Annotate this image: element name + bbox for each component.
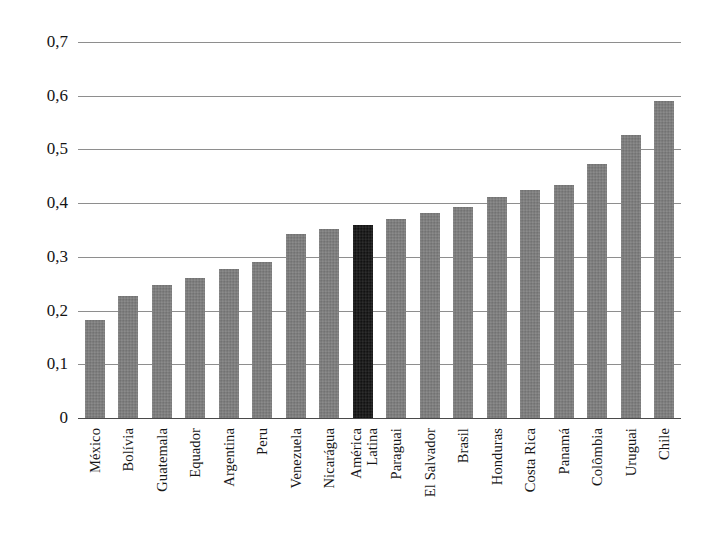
bar (152, 285, 172, 418)
x-axis-label: México (87, 428, 102, 473)
x-axis-label: Chile (657, 428, 672, 460)
x-axis-label-slot: México (78, 424, 112, 536)
x-axis-label: Equador (188, 428, 203, 478)
x-axis-label-slot: Honduras (480, 424, 514, 536)
x-axis-label: Guatemala (154, 428, 169, 492)
bar-slot (346, 42, 380, 418)
x-axis-label: Argentina (221, 428, 236, 487)
x-axis-label-slot: Guatemala (145, 424, 179, 536)
x-axis-label: Brasil (456, 428, 471, 463)
x-axis-label: Paraguai (389, 428, 404, 480)
bar-slot (145, 42, 179, 418)
x-axis-label-slot: Venezuela (279, 424, 313, 536)
bar (85, 320, 105, 418)
x-axis-label: Venezuela (288, 428, 303, 488)
x-axis-baseline (78, 418, 681, 419)
bar-slot (413, 42, 447, 418)
bar-slot (246, 42, 280, 418)
x-axis-label-slot: Equador (179, 424, 213, 536)
x-axis-label: Colômbia (590, 428, 605, 486)
x-axis-label: Costa Rica (523, 428, 538, 492)
bar (487, 197, 507, 418)
x-axis-label: Nicarágua (322, 428, 337, 488)
bar-slot (78, 42, 112, 418)
bar (654, 101, 674, 418)
bar-highlight (353, 225, 373, 418)
x-axis-label-slot: Costa Rica (514, 424, 548, 536)
x-axis-label: Panamá (556, 428, 571, 475)
bar-slot (380, 42, 414, 418)
bar (386, 219, 406, 418)
x-axis-label-slot: Brasil (447, 424, 481, 536)
y-axis-tick-label: 0,4 (12, 194, 68, 211)
bar-chart: 0,70,60,50,40,30,20,10 MéxicoBolíviaGuat… (0, 0, 708, 536)
x-axis-label: América (348, 428, 363, 479)
bar-slot (514, 42, 548, 418)
y-axis-tick-label: 0,1 (12, 355, 68, 372)
bar-slot (279, 42, 313, 418)
bar (420, 213, 440, 418)
bar-slot (581, 42, 615, 418)
bar (554, 185, 574, 418)
bar-slot (112, 42, 146, 418)
y-axis-tick-label: 0,7 (12, 33, 68, 50)
bar (118, 296, 138, 418)
y-axis-tick-label: 0,5 (12, 140, 68, 157)
x-axis-label-slot: Argentina (212, 424, 246, 536)
bar-slot (648, 42, 682, 418)
x-axis-label-slot: Nicarágua (313, 424, 347, 536)
bar (621, 135, 641, 418)
bar-slot (313, 42, 347, 418)
bar-slot (480, 42, 514, 418)
x-axis-label-slot: Panamá (547, 424, 581, 536)
bar (286, 234, 306, 418)
x-axis-label-slot: Paraguai (380, 424, 414, 536)
bar (319, 229, 339, 418)
x-axis-label-slot: Colômbia (581, 424, 615, 536)
bar (520, 190, 540, 418)
x-axis-label: Uruguai (623, 428, 638, 476)
x-axis-label: El Salvador (422, 428, 437, 497)
x-axis-label-slot: Peru (246, 424, 280, 536)
y-axis-tick-label: 0,3 (12, 248, 68, 265)
bar-slot (547, 42, 581, 418)
x-axis-label-slot: AméricaLatina (346, 424, 380, 536)
bars-group (78, 42, 681, 418)
bar-slot (212, 42, 246, 418)
x-axis-label: Latina (364, 428, 379, 466)
bar (185, 278, 205, 418)
bar (587, 164, 607, 418)
x-axis-label-slot: Uruguai (614, 424, 648, 536)
bar-slot (614, 42, 648, 418)
y-axis-tick-label: 0 (12, 409, 68, 426)
plot-area: 0,70,60,50,40,30,20,10 (78, 42, 681, 418)
bar (252, 262, 272, 418)
y-axis-tick-label: 0,6 (12, 87, 68, 104)
bar-slot (179, 42, 213, 418)
x-axis-labels: MéxicoBolíviaGuatemalaEquadorArgentinaPe… (78, 424, 681, 536)
x-axis-label: Bolívia (121, 428, 136, 471)
x-axis-label-slot: Bolívia (112, 424, 146, 536)
bar-slot (447, 42, 481, 418)
bar (219, 269, 239, 418)
bar (453, 207, 473, 418)
y-axis-tick-label: 0,2 (12, 302, 68, 319)
x-axis-label-slot: El Salvador (413, 424, 447, 536)
x-axis-label-slot: Chile (648, 424, 682, 536)
x-axis-label: Honduras (489, 428, 504, 485)
x-axis-label: Peru (255, 428, 270, 455)
